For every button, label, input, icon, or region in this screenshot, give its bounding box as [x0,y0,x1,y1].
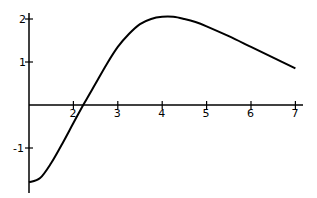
x-tick-label: 6 [247,107,254,120]
y-tick-label: -1 [13,142,24,155]
x-tick-label: 7 [291,107,298,120]
x-tick-label: 5 [203,107,210,120]
chart: 234567 21-1 [0,0,317,198]
y-tick-label: 2 [19,13,26,26]
y-tick-label: 1 [19,56,26,69]
x-tick-label: 4 [158,107,165,120]
x-tick-label: 3 [114,107,121,120]
data-line [29,17,295,183]
